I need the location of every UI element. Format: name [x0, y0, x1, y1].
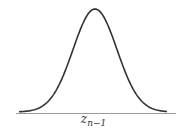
axis-label: zn−1 — [0, 112, 187, 128]
gaussian-curve — [19, 9, 167, 112]
